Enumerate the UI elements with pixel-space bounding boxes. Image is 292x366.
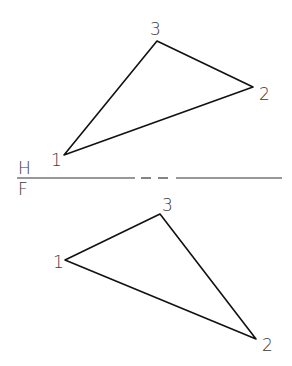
top-view-triangle <box>64 41 253 155</box>
top-vertex-2-label: 2 <box>259 84 270 104</box>
top-vertex-3-label: 3 <box>150 19 161 39</box>
top-vertex-1-label: 1 <box>51 150 62 170</box>
front-view-triangle <box>65 214 256 339</box>
reference-label-f: F <box>18 179 28 199</box>
front-vertex-3-label: 3 <box>162 195 173 215</box>
front-vertex-1-label: 1 <box>53 252 64 272</box>
orthographic-drawing: 1 2 3 H F 1 2 3 <box>0 0 292 366</box>
reference-label-h: H <box>18 158 31 178</box>
top-view: 1 2 3 <box>51 19 270 170</box>
front-vertex-2-label: 2 <box>262 335 273 355</box>
front-view: 1 2 3 <box>53 195 273 355</box>
